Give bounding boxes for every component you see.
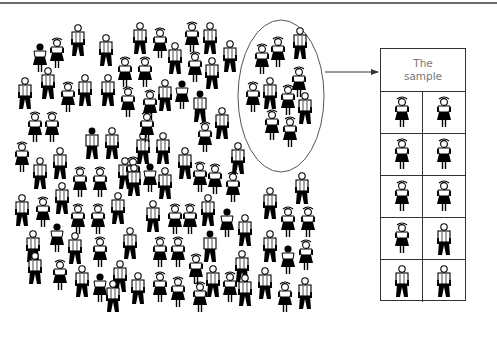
girl-figure-icon: [121, 87, 135, 117]
girl-figure-icon: [15, 142, 29, 172]
sample-header-line2: sample: [404, 70, 442, 83]
sample-grid: [381, 92, 465, 302]
girl-figure-icon: [193, 282, 207, 312]
girl-figure-icon: [281, 245, 295, 274]
girl-figure-icon: [118, 57, 132, 87]
boy-figure-icon: [158, 168, 172, 199]
sample-box: The sample: [380, 48, 466, 301]
girl-figure-icon: [61, 82, 75, 112]
boy-figure-icon: [33, 158, 47, 189]
girl-figure-icon: [143, 163, 157, 192]
girl-figure-icon: [432, 138, 456, 172]
sample-cell: [381, 218, 423, 260]
boy-figure-icon: [194, 91, 206, 122]
sample-cell: [381, 134, 423, 176]
boy-figure-icon: [113, 261, 127, 292]
boy-figure-icon: [295, 173, 309, 204]
sample-header: The sample: [381, 49, 465, 92]
girl-figure-icon: [33, 43, 47, 72]
sample-cell: [423, 218, 465, 260]
population-crowd: [15, 22, 315, 312]
girl-figure-icon: [193, 162, 207, 192]
boy-figure-icon: [205, 58, 219, 89]
girl-figure-icon: [390, 222, 414, 256]
sample-cell: [381, 92, 423, 134]
boy-figure-icon: [156, 133, 170, 164]
girl-figure-icon: [171, 277, 185, 307]
boy-figure-icon: [158, 80, 172, 111]
boy-figure-icon: [258, 268, 272, 299]
boy-figure-icon: [53, 148, 67, 179]
boy-figure-icon: [298, 93, 312, 124]
boy-figure-icon: [75, 266, 89, 297]
girl-figure-icon: [93, 237, 107, 267]
girl-figure-icon: [168, 204, 182, 234]
sample-cell: [423, 260, 465, 302]
girl-figure-icon: [255, 44, 269, 74]
boy-figure-icon: [231, 143, 245, 174]
boy-figure-icon: [432, 222, 456, 256]
boy-figure-icon: [263, 188, 277, 219]
girl-figure-icon: [432, 96, 456, 130]
boy-figure-icon: [201, 195, 215, 226]
sample-cell: [423, 176, 465, 218]
girl-figure-icon: [246, 82, 260, 112]
girl-figure-icon: [281, 207, 295, 237]
boy-figure-icon: [55, 183, 69, 214]
girl-figure-icon: [183, 204, 197, 234]
boy-figure-icon: [86, 128, 98, 159]
girl-figure-icon: [71, 204, 85, 234]
girl-figure-icon: [91, 204, 105, 234]
girl-figure-icon: [189, 254, 203, 284]
girl-figure-icon: [432, 180, 456, 214]
girl-figure-icon: [73, 167, 87, 197]
girl-figure-icon: [226, 172, 240, 202]
boy-figure-icon: [78, 75, 92, 106]
girl-figure-icon: [175, 80, 189, 109]
girl-figure-icon: [138, 57, 152, 87]
boy-figure-icon: [206, 266, 220, 297]
girl-figure-icon: [390, 180, 414, 214]
boy-figure-icon: [18, 78, 32, 109]
boy-figure-icon: [111, 193, 125, 224]
girl-figure-icon: [50, 38, 64, 68]
sample-cell: [381, 260, 423, 302]
sample-header-line1: The: [413, 57, 433, 70]
boy-figure-icon: [238, 215, 252, 246]
girl-figure-icon: [390, 96, 414, 130]
boy-figure-icon: [390, 264, 414, 298]
boy-figure-icon: [105, 128, 119, 159]
girl-figure-icon: [45, 112, 59, 142]
boy-figure-icon: [131, 273, 145, 304]
girl-figure-icon: [188, 52, 202, 82]
boy-figure-icon: [298, 278, 312, 309]
girl-figure-icon: [271, 37, 285, 67]
boy-figure-icon: [178, 148, 192, 179]
girl-figure-icon: [283, 117, 297, 147]
boy-figure-icon: [68, 233, 82, 264]
girl-figure-icon: [301, 207, 315, 237]
boy-figure-icon: [146, 201, 160, 232]
selected-group: [246, 28, 312, 147]
girl-figure-icon: [185, 22, 199, 52]
boy-figure-icon: [263, 78, 277, 109]
boy-figure-icon: [123, 228, 137, 259]
girl-figure-icon: [223, 272, 237, 302]
girl-figure-icon: [390, 138, 414, 172]
boy-figure-icon: [432, 264, 456, 298]
girl-figure-icon: [208, 164, 222, 194]
boy-figure-icon: [215, 108, 229, 139]
girl-figure-icon: [93, 273, 107, 302]
boy-figure-icon: [133, 23, 147, 54]
boy-figure-icon: [263, 231, 277, 262]
girl-figure-icon: [171, 237, 185, 267]
girl-figure-icon: [93, 167, 107, 197]
girl-figure-icon: [36, 197, 50, 227]
girl-figure-icon: [278, 282, 292, 312]
girl-figure-icon: [53, 260, 67, 290]
girl-figure-icon: [153, 272, 167, 302]
sample-cell: [381, 176, 423, 218]
boy-figure-icon: [15, 195, 29, 226]
girl-figure-icon: [28, 112, 42, 142]
boy-figure-icon: [71, 25, 85, 56]
